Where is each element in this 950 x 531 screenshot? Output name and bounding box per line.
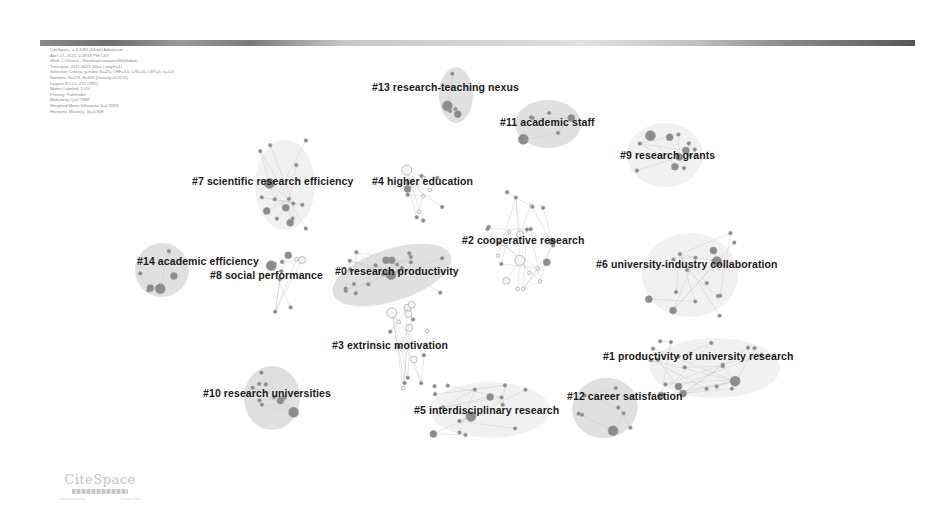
cluster-label-0[interactable]: #0 research productivity — [335, 265, 459, 277]
node[interactable] — [458, 431, 462, 435]
node[interactable] — [273, 262, 277, 266]
node[interactable] — [473, 388, 477, 392]
node[interactable] — [138, 272, 142, 276]
cluster-label-4[interactable]: #4 higher education — [372, 175, 473, 187]
node[interactable] — [487, 393, 494, 400]
node[interactable] — [401, 386, 405, 390]
node[interactable] — [729, 231, 733, 235]
node[interactable] — [419, 381, 423, 385]
node[interactable] — [397, 320, 401, 324]
node[interactable] — [366, 283, 370, 287]
node[interactable] — [155, 284, 165, 294]
node[interactable] — [287, 197, 291, 201]
node[interactable] — [405, 311, 412, 318]
node[interactable] — [503, 277, 510, 284]
node[interactable] — [536, 266, 540, 270]
node[interactable] — [408, 252, 412, 256]
node[interactable] — [670, 307, 677, 314]
node[interactable] — [514, 196, 518, 200]
node[interactable] — [524, 388, 528, 392]
node[interactable] — [541, 206, 545, 210]
node[interactable] — [295, 257, 299, 261]
node[interactable] — [645, 131, 655, 141]
node[interactable] — [409, 255, 413, 259]
node[interactable] — [516, 287, 520, 291]
node[interactable] — [486, 227, 490, 231]
node[interactable] — [430, 430, 437, 437]
node[interactable] — [433, 392, 437, 396]
cluster-label-10[interactable]: #10 research universities — [203, 387, 331, 399]
node[interactable] — [263, 207, 270, 214]
node[interactable] — [732, 241, 736, 245]
node[interactable] — [507, 230, 511, 234]
node[interactable] — [421, 219, 425, 223]
node[interactable] — [264, 383, 268, 387]
node[interactable] — [287, 219, 294, 226]
node[interactable] — [406, 324, 413, 331]
cluster-label-3[interactable]: #3 extrinsic motivation — [332, 339, 448, 351]
node[interactable] — [257, 382, 261, 386]
node[interactable] — [388, 330, 392, 334]
node[interactable] — [705, 281, 709, 285]
node[interactable] — [669, 340, 673, 344]
node[interactable] — [402, 165, 412, 175]
node[interactable] — [439, 291, 443, 295]
node[interactable] — [387, 308, 397, 318]
node[interactable] — [515, 255, 525, 265]
cluster-label-12[interactable]: #12 career satisfaction — [567, 390, 683, 402]
cluster-label-14[interactable]: #14 academic efficiency — [137, 255, 259, 267]
node[interactable] — [543, 259, 550, 266]
node[interactable] — [664, 383, 668, 387]
node[interactable] — [406, 376, 410, 380]
node[interactable] — [299, 256, 306, 263]
node[interactable] — [577, 412, 581, 416]
node[interactable] — [721, 364, 725, 368]
node[interactable] — [280, 260, 284, 264]
node[interactable] — [422, 353, 426, 357]
node[interactable] — [635, 169, 639, 173]
cluster-label-11[interactable]: #11 academic staff — [500, 116, 595, 128]
node[interactable] — [417, 210, 421, 214]
node[interactable] — [260, 403, 264, 407]
node[interactable] — [730, 387, 734, 391]
node[interactable] — [718, 294, 722, 298]
node[interactable] — [440, 205, 444, 209]
node[interactable] — [410, 356, 417, 363]
cluster-label-2[interactable]: #2 cooperative research — [462, 234, 585, 246]
node[interactable] — [658, 339, 662, 343]
node[interactable] — [538, 280, 542, 284]
node[interactable] — [693, 300, 697, 304]
node[interactable] — [282, 204, 289, 211]
node[interactable] — [348, 259, 352, 263]
node[interactable] — [167, 249, 171, 253]
node[interactable] — [645, 296, 652, 303]
node[interactable] — [671, 163, 678, 170]
node[interactable] — [718, 314, 722, 318]
node[interactable] — [268, 143, 272, 147]
node[interactable] — [294, 163, 298, 167]
node[interactable] — [304, 227, 308, 231]
cluster-label-8[interactable]: #8 social performance — [210, 269, 323, 281]
cluster-label-5[interactable]: #5 interdisciplinary research — [414, 404, 559, 416]
cluster-label-1[interactable]: #1 productivity of university research — [603, 350, 794, 362]
node[interactable] — [736, 377, 740, 381]
node[interactable] — [528, 271, 532, 275]
node[interactable] — [678, 252, 682, 256]
node[interactable] — [556, 131, 560, 135]
node[interactable] — [425, 329, 429, 333]
node[interactable] — [710, 247, 717, 254]
node[interactable] — [260, 196, 264, 200]
node[interactable] — [675, 383, 682, 390]
node[interactable] — [503, 384, 507, 388]
node[interactable] — [505, 190, 509, 194]
node[interactable] — [638, 142, 642, 146]
node[interactable] — [355, 250, 359, 254]
node[interactable] — [440, 257, 444, 261]
node[interactable] — [275, 217, 279, 221]
node[interactable] — [411, 318, 415, 322]
node[interactable] — [608, 426, 618, 436]
node[interactable] — [454, 111, 461, 118]
node[interactable] — [687, 142, 691, 146]
node[interactable] — [406, 193, 410, 197]
node[interactable] — [531, 205, 535, 209]
